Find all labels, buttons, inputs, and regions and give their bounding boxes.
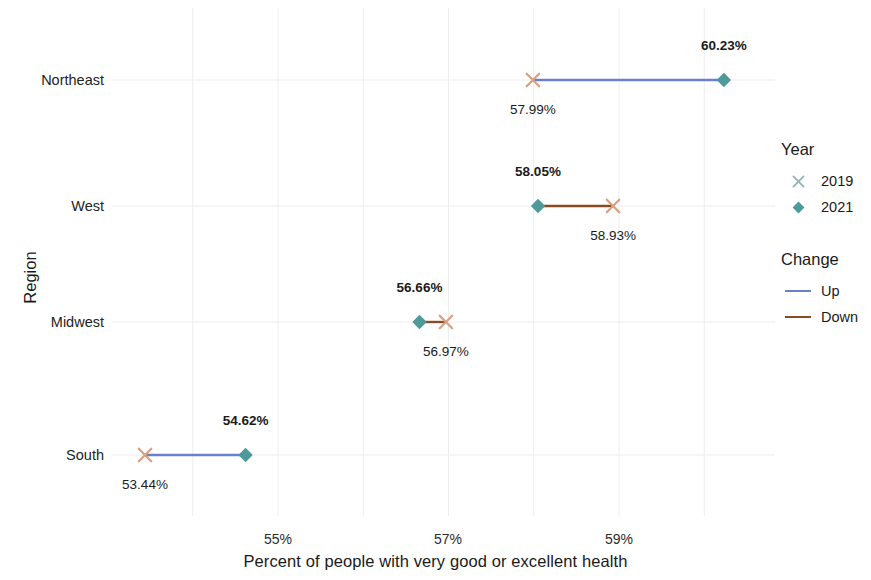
dumbbell-chart: Northeast West Midwest South 55% 57% 59%… [0,0,871,580]
chart-legend: Year 2019 2021 Change [781,140,871,360]
value-label-2019-south: 53.44% [122,477,168,492]
value-label-2019-northeast: 57.99% [510,102,556,117]
y-tick-label-midwest: Midwest [0,314,104,330]
y-tick-label-west: West [0,198,104,214]
legend-item-2021[interactable]: 2021 [781,194,871,220]
marker-2021 [412,315,426,329]
value-label-2021-west: 58.05% [515,164,561,179]
line-down-icon [781,307,815,327]
legend-title-year: Year [781,140,871,159]
value-label-2021-midwest: 56.66% [397,280,443,295]
legend-label-2019: 2019 [815,173,853,189]
legend-label-2021: 2021 [815,199,853,215]
x-axis-title: Percent of people with very good or exce… [0,552,871,571]
x-tick-label-59: 59% [605,531,633,547]
value-label-2019-midwest: 56.97% [423,344,469,359]
legend-item-up[interactable]: Up [781,278,871,304]
legend-group-change: Change Up Down [781,250,871,330]
line-up-icon [781,281,815,301]
y-tick-label-northeast: Northeast [0,72,104,88]
x-tick-label-55: 55% [264,531,292,547]
value-label-2019-west: 58.93% [590,228,636,243]
marker-2021 [238,448,252,462]
marker-2021 [717,73,731,87]
data-marks [139,73,731,462]
legend-item-2019[interactable]: 2019 [781,168,871,194]
x-marker-icon [781,171,815,191]
gridlines [112,8,775,516]
legend-item-down[interactable]: Down [781,304,871,330]
legend-label-up: Up [815,283,840,299]
marker-2021 [531,199,545,213]
value-label-2021-northeast: 60.23% [701,38,747,53]
diamond-marker-icon [781,197,815,217]
x-tick-label-57: 57% [434,531,462,547]
y-tick-label-south: South [0,447,104,463]
y-axis-title: Region [21,218,40,338]
value-label-2021-south: 54.62% [223,413,269,428]
legend-title-change: Change [781,250,871,269]
legend-label-down: Down [815,309,858,325]
legend-group-year: Year 2019 2021 [781,140,871,220]
